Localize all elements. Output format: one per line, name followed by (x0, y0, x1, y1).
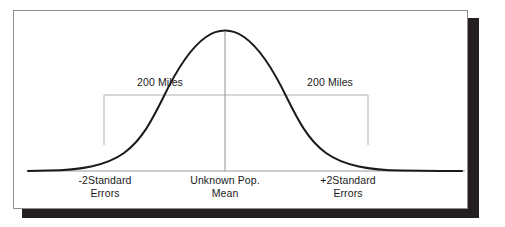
axis-label-lower-bound-line1: -2Standard (79, 174, 132, 186)
annotation-left-distance: 200 Miles (137, 76, 183, 89)
axis-label-population-mean-line1: Unknown Pop. (190, 174, 260, 186)
annotation-right-distance: 200 Miles (307, 76, 353, 89)
annotation-left-distance-text: 200 Miles (137, 76, 183, 88)
axis-label-lower-bound: -2Standard Errors (79, 174, 132, 200)
axis-label-upper-bound-line2: Errors (320, 187, 376, 200)
axis-label-upper-bound: +2Standard Errors (320, 174, 376, 200)
axis-label-lower-bound-line2: Errors (79, 187, 132, 200)
normal-curve (28, 31, 462, 172)
axis-label-upper-bound-line1: +2Standard (320, 174, 376, 186)
confidence-bracket (104, 95, 368, 145)
annotation-right-distance-text: 200 Miles (307, 76, 353, 88)
normal-distribution-figure: 200 Miles 200 Miles -2Standard Errors Un… (0, 0, 505, 227)
axis-label-population-mean: Unknown Pop. Mean (190, 174, 260, 200)
axis-label-population-mean-line2: Mean (190, 187, 260, 200)
